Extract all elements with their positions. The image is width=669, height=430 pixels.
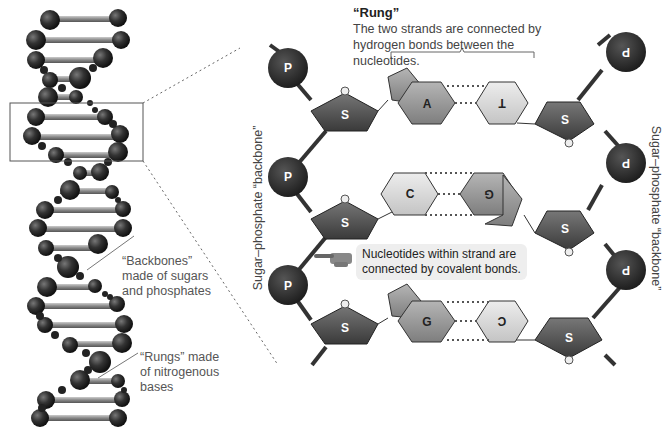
phosphate-label: P: [284, 170, 292, 184]
dna-diagram: P P P S S S P P P S S S A T C G G C: [0, 0, 669, 430]
phosphate-label: P: [622, 45, 630, 59]
base-label: C: [497, 314, 506, 328]
sugar-label: S: [565, 331, 573, 345]
base-label: C: [406, 187, 415, 201]
left-backbone: [270, 45, 326, 365]
sugar-label: S: [341, 216, 349, 230]
zoom-guide-top: [143, 48, 240, 103]
covalent-bond-callout: Nucleotides within strand are connected …: [356, 244, 527, 280]
base-label: G: [484, 187, 493, 201]
pointing-hand-icon: [314, 253, 352, 267]
rung-title: “Rung”: [353, 5, 399, 20]
rungs-label: “Rungs” made of nitrogenous bases: [140, 350, 219, 395]
base-pair-2: [381, 173, 522, 226]
sugar-label: S: [341, 321, 349, 335]
sugar-label: S: [561, 113, 569, 127]
right-backbone-label: Sugar–phosphate “backbone”: [649, 126, 663, 291]
base-pair-3: [388, 284, 528, 342]
base-label: T: [498, 96, 506, 110]
phosphate-label: P: [284, 279, 292, 293]
base-label: A: [423, 97, 432, 111]
base-pair-1: [388, 68, 528, 124]
phosphate-label: P: [622, 156, 630, 170]
sugar-label: S: [561, 222, 569, 236]
rung-description: The two strands are connected by hydroge…: [353, 21, 583, 69]
backbones-label: “Backbones” made of sugars and phosphate…: [122, 254, 211, 299]
left-backbone-label: Sugar–phosphate “backbone”: [251, 126, 265, 291]
double-helix-model: [23, 9, 133, 427]
sugar-label: S: [341, 108, 349, 122]
base-label: G: [422, 315, 431, 329]
phosphate-label: P: [622, 263, 630, 277]
phosphate-label: P: [284, 61, 292, 75]
right-backbone: [578, 35, 622, 365]
